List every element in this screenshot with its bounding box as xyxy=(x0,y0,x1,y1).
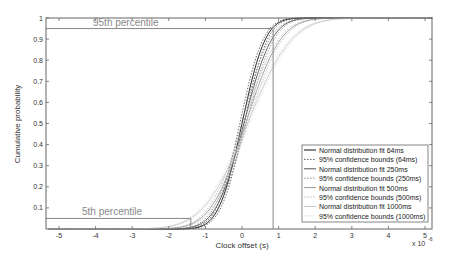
x-tick-label: 1 xyxy=(277,232,281,239)
annotation-95th-percentile: 95th percentile xyxy=(93,17,159,28)
cdf-chart: -5-4-3-2-1012345 0.10.20.30.40.50.60.70.… xyxy=(0,0,453,260)
y-tick-label: 0.4 xyxy=(33,141,43,148)
legend-entry: 95% confidence bounds (64ms) xyxy=(319,156,417,164)
annotation-5th-percentile: 5th percentile xyxy=(82,206,142,217)
y-tick-label: 0.6 xyxy=(33,99,43,106)
legend: Normal distribution fit 64ms95% confiden… xyxy=(302,145,428,222)
x-tick-label: -4 xyxy=(92,232,98,239)
x-exponent-value: -6 xyxy=(428,236,433,242)
x-axis-label: Clock offset (s) xyxy=(215,241,269,250)
y-tick-label: 0.3 xyxy=(33,162,43,169)
x-tick-label: 2 xyxy=(313,232,317,239)
x-tick-label: 4 xyxy=(386,232,390,239)
y-tick-label: 0.7 xyxy=(33,78,43,85)
percentile-reference-lines xyxy=(46,29,273,229)
y-tick-label: 0.2 xyxy=(33,183,43,190)
legend-entry: 95% confidence bounds (500ms) xyxy=(319,194,421,202)
x-tick-label: -2 xyxy=(166,232,172,239)
legend-entry: 95% confidence bounds (250ms) xyxy=(319,175,421,183)
y-tick-label: 0.8 xyxy=(33,57,43,64)
x-tick-label: 3 xyxy=(350,232,354,239)
x-tick-label: -1 xyxy=(202,232,208,239)
x-tick-label: 0 xyxy=(240,232,244,239)
y-tick-label: 1 xyxy=(39,15,43,22)
legend-entry: Normal distribution fit 1000ms xyxy=(319,203,412,210)
y-tick-label: 0.1 xyxy=(33,204,43,211)
legend-entry: Normal distribution fit 250ms xyxy=(319,166,408,173)
x-tick-label: 5 xyxy=(423,232,427,239)
y-axis-label: Cumulative probability xyxy=(13,85,22,164)
legend-entry: Normal distribution fit 64ms xyxy=(319,147,404,154)
x-tick-label: -5 xyxy=(56,232,62,239)
legend-entry: 95% confidence bounds (1000ms) xyxy=(319,213,425,221)
x-tick-label: -3 xyxy=(129,232,135,239)
legend-entry: Normal distribution fit 500ms xyxy=(319,185,408,192)
y-tick-label: 0.9 xyxy=(33,36,43,43)
y-tick-label: 0.5 xyxy=(33,120,43,127)
x-exponent-label: x 10 xyxy=(412,240,425,247)
